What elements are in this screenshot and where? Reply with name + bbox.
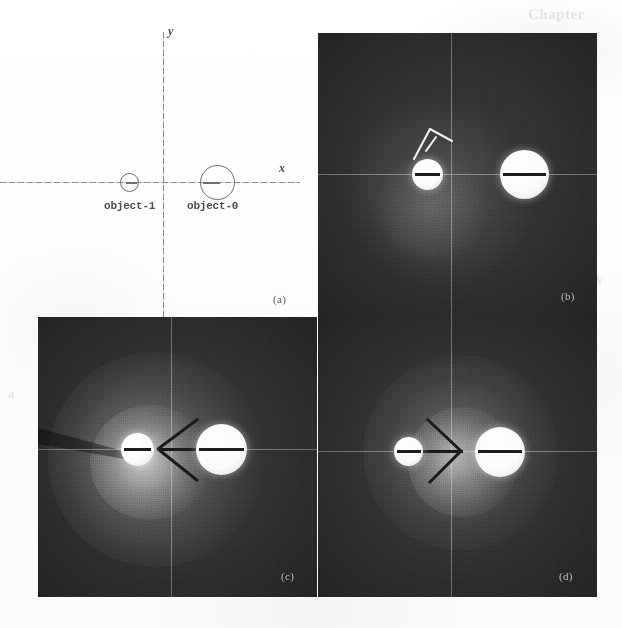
panel-a-schematic: y x object-1 object-0 (a) [0, 10, 318, 317]
panel-c-object-1-disc [121, 433, 154, 466]
panel-c-object-0-disc [196, 424, 247, 475]
object-0-radius-line [203, 182, 220, 184]
panel-c-crosshair-vertical [171, 317, 172, 597]
panel-d-crosshair-vertical [451, 317, 452, 597]
panel-c-crosshair-horizontal [38, 449, 317, 450]
panel-d-vignette [318, 317, 597, 597]
panel-d-intensity-map: (d) [318, 317, 597, 597]
object-1-radius-line [126, 182, 137, 184]
panel-b-crosshair-horizontal [318, 174, 597, 175]
panel-c-intensity-map: (c) [38, 317, 317, 597]
panel-b-tag: (b) [561, 290, 575, 302]
y-axis-label: y [168, 24, 173, 39]
panel-d-object-1-disc [394, 437, 423, 466]
panel-d-crosshair-horizontal [318, 451, 597, 452]
figure-root: Chapter v a y x object-1 object-0 (a) [0, 0, 622, 628]
panel-c-tag: (c) [281, 570, 294, 582]
panel-a-tag: (a) [273, 293, 286, 305]
panel-d-noise [318, 317, 597, 597]
panel-d-tag: (d) [559, 570, 573, 582]
panel-c-vignette [38, 317, 317, 597]
panel-d-object-0-disc [475, 427, 525, 477]
panel-b-object-1-disc [412, 159, 443, 190]
panel-b-noise [318, 33, 597, 317]
x-axis-label: x [279, 161, 285, 176]
ghost-text-lower-left: a [8, 386, 15, 402]
panel-b-intensity-map: (b) [318, 33, 597, 317]
panel-c-core-halo [90, 405, 210, 520]
panel-c-noise [38, 317, 317, 597]
y-axis-line [163, 32, 164, 327]
ghost-text-mid-right: v [596, 272, 604, 288]
x-axis-line [0, 182, 300, 183]
object-0-label: object-0 [187, 200, 238, 212]
panel-b-object-0-disc [500, 150, 549, 199]
panel-b-vignette [318, 33, 597, 317]
panel-b-crosshair-vertical [451, 33, 452, 317]
ghost-text-top-right: Chapter [528, 6, 585, 23]
object-1-label: object-1 [104, 200, 155, 212]
panel-d-primary-halo [363, 355, 558, 550]
